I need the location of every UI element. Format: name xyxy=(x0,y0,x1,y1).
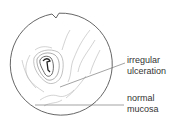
endoscope-field-outline xyxy=(10,13,112,115)
label-normal-mucosa: normal mucosa xyxy=(127,93,159,115)
label-line-2: ulceration xyxy=(127,66,166,77)
label-irregular-ulceration: irregular ulceration xyxy=(127,55,166,77)
label-line-2: mucosa xyxy=(127,104,159,115)
label-line-1: normal xyxy=(127,93,159,104)
label-line-1: irregular xyxy=(127,55,166,66)
